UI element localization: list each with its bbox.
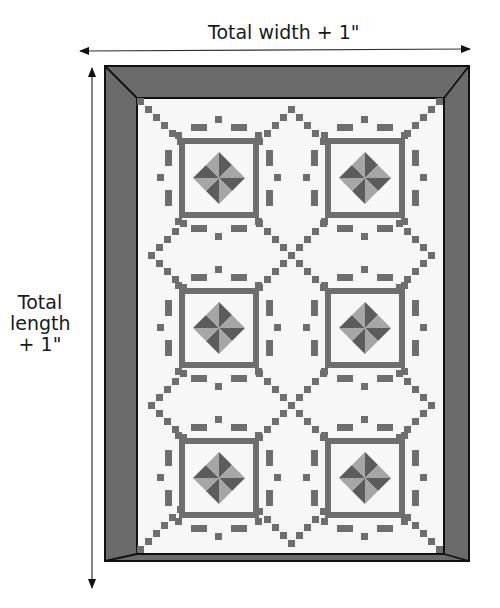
quilt-diagram	[0, 0, 500, 608]
width-arrow	[80, 49, 470, 51]
